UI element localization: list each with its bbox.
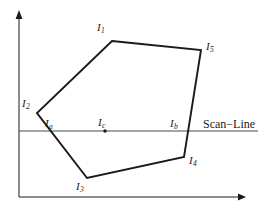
vertex-label-I5: I5 bbox=[206, 41, 214, 53]
vertex-label-I1: I1 bbox=[97, 22, 105, 34]
figure-canvas bbox=[0, 0, 276, 211]
vertex-label-I2: I2 bbox=[22, 98, 30, 110]
x-axis-arrowhead bbox=[238, 193, 246, 200]
vertex-label-I3: I3 bbox=[76, 181, 84, 193]
scan-line-label: Scan−Line bbox=[203, 118, 255, 130]
polygon-outline bbox=[37, 41, 201, 178]
axes-group bbox=[16, 10, 246, 201]
intersection-label-Ib: Ib bbox=[170, 118, 178, 130]
intersection-label-Ia: Ia bbox=[45, 118, 53, 130]
vertex-label-I4: I4 bbox=[189, 155, 197, 167]
y-axis-arrowhead bbox=[16, 10, 23, 19]
interior-point-dot bbox=[103, 129, 106, 132]
scan-line-polygon-figure: I1 I5 I4 I3 I2 Ia Ib Ic Scan−Line bbox=[0, 0, 276, 211]
interior-point-label-Ic: Ic bbox=[98, 117, 105, 129]
